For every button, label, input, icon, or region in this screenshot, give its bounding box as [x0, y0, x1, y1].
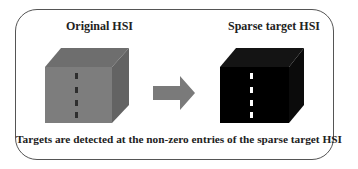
diagram-caption: Targets are detected at the non-zero ent… [0, 133, 358, 145]
arrow-right-icon [153, 76, 195, 110]
sparse-target-hsi-cube [220, 48, 304, 123]
original-hsi-cube [45, 48, 129, 123]
